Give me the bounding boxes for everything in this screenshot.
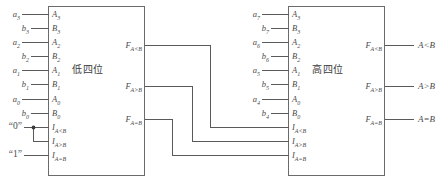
low-pin-label-A1: A1 [52,66,60,77]
comparator-cascade-diagram: 低四位 a3 b3 a2 b2 a1 b1 a0 b0 “0” “1” A3 B… [0,0,445,182]
result-label-a-lt-b: A<B [418,41,435,50]
high-signal-label-b7: b7 [249,24,269,35]
high-signal-label-a5: a5 [240,66,260,77]
high-pin-label-B1: B1 [292,80,300,91]
low-signal-label-b0: b0 [9,109,29,120]
high-output-label-FALTB: FA<B [344,41,382,52]
const0-branch-to-iagtb [34,128,49,142]
high-pin-label-B0: B0 [292,109,300,120]
low-signal-label-b2: b2 [9,52,29,63]
high-pin-label-IALTB: IA<B [292,123,306,134]
junction-dot [32,126,36,130]
low-signal-label-a1: a1 [0,66,20,77]
result-label-a-eq-b: A=B [418,115,435,124]
low-output-label-FALTB: FA<B [104,41,142,52]
low-pin-label-IAGTB: IA>B [52,137,66,148]
high-output-label-FAEQB: FA=B [344,115,382,126]
high-pin-label-IAEQB: IA=B [292,151,306,162]
high-pin-label-A2: A2 [292,38,300,49]
low-output-label-FAGTB: FA>B [104,82,142,93]
high-signal-label-a7: a7 [240,10,260,21]
low-signal-label-a2: a2 [0,38,20,49]
route-faeqb-to-iaeqb [145,120,289,156]
low-signal-label-a3: a3 [0,10,20,21]
low-pin-label-B1: B1 [52,80,60,91]
low-pin-label-B2: B2 [52,52,60,63]
high-signal-label-b4: b4 [249,109,269,120]
high-signal-label-a4: a4 [240,95,260,106]
high-pin-label-A1: A1 [292,66,300,77]
low-pin-label-A0: A0 [52,95,60,106]
constant-zero-label: “0” [0,122,22,132]
low-signal-label-b3: b3 [9,24,29,35]
constant-one-label: “1” [0,150,22,160]
high-signal-label-b5: b5 [249,80,269,91]
low-pin-label-A3: A3 [52,10,60,21]
low-output-label-FAEQB: FA=B [104,115,142,126]
high-signal-label-a6: a6 [240,38,260,49]
high-pin-label-A0: A0 [292,95,300,106]
high-pin-label-B2: B2 [292,52,300,63]
low-block-title: 低四位 [72,61,104,76]
low-pin-label-A2: A2 [52,38,60,49]
low-signal-label-b1: b1 [9,80,29,91]
low-pin-label-B0: B0 [52,109,60,120]
high-pin-label-IAGTB: IA>B [292,137,306,148]
result-label-a-gt-b: A>B [418,82,435,91]
low-pin-label-IALTB: IA<B [52,123,66,134]
high-signal-label-b6: b6 [249,52,269,63]
low-signal-label-a0: a0 [0,95,20,106]
high-block-title: 高四位 [312,61,344,76]
high-pin-label-B3: B3 [292,24,300,35]
high-pin-label-A3: A3 [292,10,300,21]
low-pin-label-B3: B3 [52,24,60,35]
high-output-label-FAGTB: FA>B [344,82,382,93]
low-pin-label-IAEQB: IA=B [52,151,66,162]
